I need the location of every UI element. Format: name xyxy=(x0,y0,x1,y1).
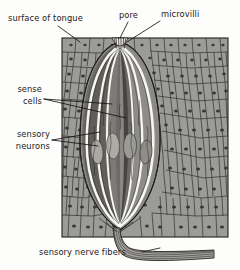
label-sensory-neurons-line2: neurons xyxy=(0,141,50,152)
label-sensory-neurons-line1: sensory xyxy=(0,129,50,140)
label-pore: pore xyxy=(119,10,138,21)
figure-canvas: surface of tongue pore microvilli sense … xyxy=(0,0,240,270)
label-sense-cells-line2: cells xyxy=(0,96,42,107)
label-microvilli: microvilli xyxy=(161,9,199,20)
label-sensory-nerve-fibers: sensory nerve fibers xyxy=(39,247,126,258)
label-sense-cells-line1: sense xyxy=(0,84,42,95)
label-surface-of-tongue: surface of tongue xyxy=(8,13,83,24)
leader-pore xyxy=(120,22,128,38)
